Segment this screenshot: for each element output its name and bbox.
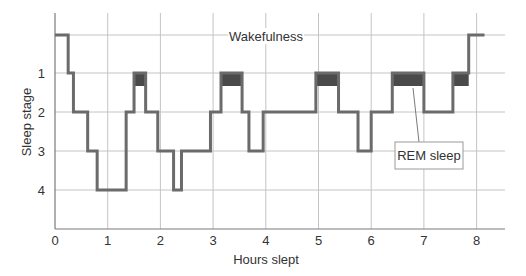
x-tick-label: 7 bbox=[420, 233, 427, 248]
x-tick-label: 5 bbox=[315, 233, 322, 248]
rem-block bbox=[453, 73, 469, 86]
x-tick-label: 6 bbox=[368, 233, 375, 248]
wakefulness-label: Wakefulness bbox=[228, 28, 304, 44]
y-axis-title: Sleep stage bbox=[19, 88, 34, 157]
callout-pointer bbox=[413, 88, 419, 142]
axes bbox=[55, 13, 505, 229]
rem-block bbox=[221, 73, 242, 86]
rem-sleep-text: REM sleep bbox=[397, 148, 461, 163]
sleep-stage-chart: 012345678 1234 Wakefulness REM sleep Hou… bbox=[0, 0, 526, 276]
x-tick-label: 2 bbox=[157, 233, 164, 248]
rem-periods bbox=[134, 73, 469, 86]
wakefulness-text: Wakefulness bbox=[229, 29, 303, 44]
x-tick-label: 3 bbox=[209, 233, 216, 248]
x-tick-label: 8 bbox=[473, 233, 480, 248]
y-tick-labels: 1234 bbox=[38, 66, 45, 198]
x-tick-label: 1 bbox=[104, 233, 111, 248]
x-tick-label: 0 bbox=[51, 233, 58, 248]
rem-block bbox=[392, 73, 424, 86]
y-tick-label: 3 bbox=[38, 144, 45, 159]
x-axis-title: Hours slept bbox=[233, 252, 299, 267]
x-tick-label: 4 bbox=[262, 233, 269, 248]
y-tick-label: 1 bbox=[38, 66, 45, 81]
y-tick-label: 2 bbox=[38, 105, 45, 120]
y-tick-label: 4 bbox=[38, 183, 45, 198]
rem-block bbox=[316, 73, 339, 86]
x-tick-labels: 012345678 bbox=[51, 233, 480, 248]
grid-lines bbox=[55, 13, 505, 229]
rem-block bbox=[134, 73, 146, 86]
